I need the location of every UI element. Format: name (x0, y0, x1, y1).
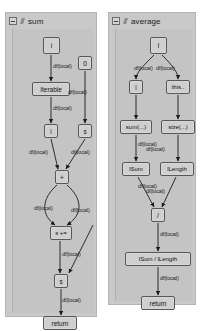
node-label: l (135, 84, 136, 91)
edge-label-df-local: df(local) (62, 251, 81, 257)
node-operator-plus[interactable]: + (55, 170, 69, 184)
panel-header-average[interactable]: average (112, 15, 161, 27)
node-label: sum(...) (126, 124, 146, 131)
edge-label-df-local: df(local) (134, 65, 153, 71)
panel-header-sum[interactable]: sum (9, 15, 43, 27)
graph-sum: i Iterable 0 i s + s += (13, 29, 94, 313)
edge-label-df-local: df(local) (68, 89, 87, 95)
node-variable-i[interactable]: i (44, 124, 58, 138)
edge-label-df-local: df(local) (146, 188, 165, 194)
edge-label-df-local: df(local) (156, 65, 175, 71)
node-label: i (51, 42, 52, 49)
panel-title-average: average (131, 17, 161, 26)
node-assign-splus[interactable]: s += (50, 226, 72, 240)
graph-panel-average[interactable]: average (108, 12, 196, 305)
node-variable-llength[interactable]: lLength (160, 162, 194, 176)
node-this[interactable]: this.. (166, 80, 190, 94)
edge-label-df-local: df(local) (160, 275, 179, 281)
node-label: this.. (172, 84, 185, 91)
node-iterable[interactable]: Iterable (32, 82, 70, 96)
panel-canvas-average: l l this.. sum(...) size(...) lSum (115, 29, 193, 301)
node-label: size(...) (168, 124, 188, 131)
screenshot-root: sum (0, 0, 200, 331)
node-label: l (158, 42, 159, 49)
edge-label-df-local: df(local) (29, 149, 48, 155)
node-label: s (83, 128, 86, 135)
node-parameter-l[interactable]: l (150, 37, 167, 54)
node-variable-l[interactable]: l (129, 80, 143, 94)
node-label: / (157, 212, 159, 219)
node-variable-s[interactable]: s (78, 124, 92, 138)
node-label: 0 (83, 60, 87, 67)
node-expression-quotient[interactable]: lSum / lLength (125, 252, 191, 266)
node-label: lSum (129, 166, 143, 173)
edge-label-df-local: df(local) (71, 207, 90, 213)
edge-label-df-local: df(local) (34, 205, 53, 211)
node-label: Iterable (40, 86, 62, 93)
edge-label-df-local: df(local) (62, 297, 81, 303)
node-label: lLength (167, 166, 187, 173)
node-label: return (52, 320, 69, 327)
node-call-sum[interactable]: sum(...) (120, 120, 152, 134)
node-label: s += (55, 230, 67, 237)
node-variable-s-result[interactable]: s (54, 274, 68, 288)
node-label: return (150, 300, 167, 307)
node-call-size[interactable]: size(...) (161, 120, 195, 134)
node-label: i (50, 128, 51, 135)
collapse-minus-icon[interactable] (112, 17, 120, 25)
node-variable-lsum[interactable]: lSum (122, 162, 150, 176)
node-label: lSum / lLength (139, 256, 177, 263)
node-operator-divide[interactable]: / (151, 208, 165, 222)
edge-label-df-local: df(local) (71, 149, 90, 155)
panel-canvas-sum: i Iterable 0 i s + s += (12, 29, 94, 313)
edge-label-df-local: df(local) (160, 231, 179, 237)
node-label: + (60, 174, 64, 181)
node-return[interactable]: return (43, 316, 77, 330)
method-glyph-icon (19, 17, 26, 25)
node-return[interactable]: return (141, 296, 175, 310)
method-glyph-icon (122, 17, 129, 25)
edge-label-df-local: df(local) (53, 63, 72, 69)
panel-title-sum: sum (28, 17, 43, 26)
edge-label-df-local: df(local) (53, 105, 72, 111)
graph-average: l l this.. sum(...) size(...) lSum (116, 29, 193, 301)
node-parameter-i[interactable]: i (43, 37, 60, 54)
graph-panel-sum[interactable]: sum (5, 12, 97, 317)
collapse-minus-icon[interactable] (9, 17, 17, 25)
edge-label-df-local: df(local) (146, 146, 165, 152)
node-label: s (59, 278, 62, 285)
node-literal-zero[interactable]: 0 (78, 56, 92, 70)
